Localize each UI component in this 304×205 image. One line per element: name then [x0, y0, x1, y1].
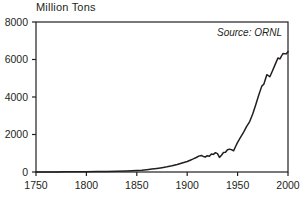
plot-frame-border [36, 22, 288, 172]
data-line [36, 52, 288, 172]
y-tick-label: 4000 [5, 91, 29, 103]
y-tick-label: 6000 [5, 53, 29, 65]
plot-area: 02000400060008000 1750180018501900195020… [0, 0, 304, 205]
y-tick-label: 8000 [5, 16, 29, 28]
axes-frame [36, 22, 288, 172]
y-axis-ticks: 02000400060008000 [5, 16, 36, 178]
x-tick-label: 2000 [276, 179, 300, 191]
data-series-group [36, 52, 288, 172]
x-axis-ticks: 175018001850190019502000 [24, 172, 300, 191]
y-tick-label: 2000 [5, 128, 29, 140]
x-tick-label: 1850 [125, 179, 149, 191]
chart-container: Million Tons Source: ORNL 02000400060008… [0, 0, 304, 205]
x-tick-label: 1950 [226, 179, 250, 191]
x-tick-label: 1800 [75, 179, 99, 191]
x-tick-label: 1750 [24, 179, 48, 191]
y-tick-label: 0 [22, 166, 28, 178]
x-tick-label: 1900 [176, 179, 200, 191]
